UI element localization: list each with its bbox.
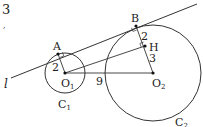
label-o1: O1	[61, 77, 75, 91]
point-o1	[63, 71, 66, 74]
label-c1: C1	[58, 98, 71, 112]
tangent-line-l	[11, 4, 197, 78]
label-c2-main: C	[175, 116, 183, 127]
point-o2	[151, 71, 154, 74]
label-a: A	[52, 40, 62, 53]
problem-number: 3	[2, 2, 10, 17]
line-label-l: l	[4, 77, 8, 91]
label-c2-sub: 2	[183, 122, 187, 127]
length-h-o2: 3	[149, 52, 156, 65]
label-o2-main: O	[152, 77, 161, 90]
stray-mark: ,	[3, 21, 6, 30]
label-o1-sub: 1	[70, 83, 74, 91]
label-c2: C2	[175, 116, 188, 127]
label-c1-sub: 1	[66, 104, 70, 112]
label-o2: O2	[152, 77, 166, 91]
label-o2-sub: 2	[161, 83, 165, 91]
label-c1-main: C	[58, 98, 66, 111]
label-b: B	[131, 12, 139, 25]
point-h	[143, 44, 146, 47]
length-a-o1: 2	[52, 61, 59, 74]
geometry-diagram: 3 , l A B H O1 O2 C1 C2 2 2 3 9	[0, 0, 203, 127]
label-o1-main: O	[61, 77, 70, 90]
length-o1-o2: 9	[96, 75, 103, 88]
length-b-h: 2	[141, 30, 148, 43]
